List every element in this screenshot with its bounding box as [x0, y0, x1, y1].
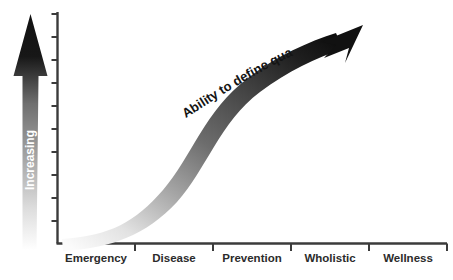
- x-label-wellness: Wellness: [383, 252, 433, 264]
- x-axis-labels: Emergency Disease Prevention Wholistic W…: [65, 252, 433, 264]
- quality-curve-arrow: [62, 25, 363, 251]
- quality-curve-band: [62, 33, 343, 251]
- x-label-wholistic: Wholistic: [304, 252, 356, 264]
- increasing-label: Increasing: [23, 130, 37, 190]
- x-label-emergency: Emergency: [65, 252, 128, 264]
- x-label-disease: Disease: [152, 252, 195, 264]
- diagram-svg: Increasing: [0, 0, 453, 280]
- axes: [52, 12, 448, 251]
- quality-curve-label-text: Ability to define quality: [0, 0, 295, 121]
- increasing-label-group: Increasing: [23, 130, 37, 190]
- quality-curve-label: Ability to define quality: [0, 0, 295, 121]
- x-label-prevention: Prevention: [222, 252, 281, 264]
- diagram-canvas: Increasing: [0, 0, 453, 280]
